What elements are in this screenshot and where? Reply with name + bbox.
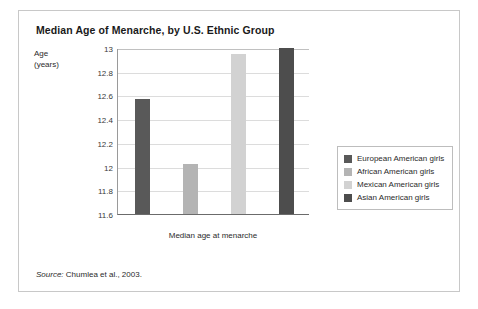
y-axis-tick-13: 13 xyxy=(104,45,113,54)
y-axis-tick-labels: 1312.812.612.412.21211.811.6 xyxy=(85,49,113,225)
legend-item-label: Asian American girls xyxy=(357,193,429,202)
legend-swatch-icon xyxy=(344,168,352,176)
y-axis-tick-12-4: 12.4 xyxy=(97,116,113,125)
legend-item: Mexican American girls xyxy=(344,178,444,191)
legend-item-label: European American girls xyxy=(357,154,444,163)
source-label: Source: xyxy=(36,270,64,279)
source-text: Chumlea et al., 2003. xyxy=(66,270,142,279)
chart-legend: European American girlsAfrican American … xyxy=(337,146,453,210)
legend-swatch-icon xyxy=(344,155,352,163)
y-axis-tick-12-2: 12.2 xyxy=(97,139,113,148)
y-axis-tick-12-6: 12.6 xyxy=(97,92,113,101)
legend-swatch-icon xyxy=(344,194,352,202)
y-axis-tick-11-8: 11.8 xyxy=(98,187,113,196)
source-note: Source: Chumlea et al., 2003. xyxy=(36,270,142,279)
y-axis-title-line1: Age xyxy=(34,48,59,59)
bar-4 xyxy=(279,48,294,214)
legend-item: African American girls xyxy=(344,165,444,178)
legend-item: Asian American girls xyxy=(344,191,444,204)
bar-series xyxy=(118,49,309,214)
plot-area xyxy=(117,49,309,215)
figure-card: Median Age of Menarche, by U.S. Ethnic G… xyxy=(18,10,460,292)
plot-wrapper: 1312.812.612.412.21211.811.6 Median age … xyxy=(117,49,309,225)
y-axis-tick-12: 12 xyxy=(104,163,113,172)
bar-2 xyxy=(183,164,198,214)
legend-item-label: African American girls xyxy=(357,167,434,176)
legend-swatch-icon xyxy=(344,181,352,189)
legend-item: European American girls xyxy=(344,152,444,165)
y-axis-title-line2: (years) xyxy=(34,59,59,70)
y-axis-tick-11-6: 11.6 xyxy=(98,211,113,220)
y-axis-tick-12-8: 12.8 xyxy=(97,68,113,77)
x-axis-label: Median age at menarche xyxy=(117,231,309,240)
bar-3 xyxy=(231,54,246,214)
legend-item-label: Mexican American girls xyxy=(357,180,439,189)
y-axis-title: Age (years) xyxy=(34,48,59,70)
bar-1 xyxy=(135,99,150,214)
page-title: Median Age of Menarche, by U.S. Ethnic G… xyxy=(36,24,275,36)
